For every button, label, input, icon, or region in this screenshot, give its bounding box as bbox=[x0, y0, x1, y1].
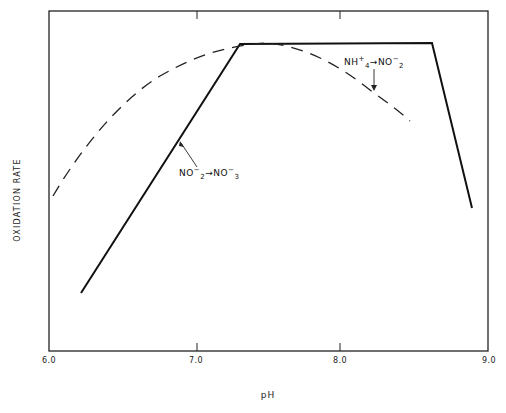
x-axis-title: pH bbox=[261, 390, 275, 400]
x-tick-label: 7.0 bbox=[189, 356, 203, 365]
y-axis-title: OXIDATION RATE bbox=[13, 158, 22, 241]
formula-subscript: 2 bbox=[399, 62, 404, 70]
x-tick-label: 6.0 bbox=[42, 356, 56, 365]
formula-subscript: 3 bbox=[234, 173, 239, 181]
formula-text: NO bbox=[378, 57, 393, 67]
formula-text: NO bbox=[213, 168, 228, 178]
x-tick-label: 8.0 bbox=[333, 356, 347, 365]
annotation-nitrite-to-nitrate: NO−2→NO−3 bbox=[179, 166, 239, 181]
plot-frame bbox=[49, 11, 488, 351]
nitrite-arrowhead-icon bbox=[179, 141, 184, 147]
annotation-ammonium-to-nitrite: NH+4→NO−2 bbox=[344, 55, 404, 70]
formula-text: NO bbox=[179, 168, 194, 178]
formula-text: NH bbox=[344, 57, 359, 67]
series-nitrite-oxidation bbox=[81, 43, 472, 293]
chart-canvas bbox=[0, 0, 506, 413]
ammonium-arrowhead-icon bbox=[371, 85, 377, 91]
x-tick-label: 9.0 bbox=[482, 356, 496, 365]
reaction-arrow-icon: → bbox=[205, 168, 213, 178]
reaction-arrow-icon: → bbox=[370, 57, 378, 67]
